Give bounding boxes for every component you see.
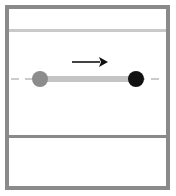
start-ball [32, 71, 48, 87]
arrow-right-icon [72, 57, 108, 67]
end-ball [128, 71, 144, 87]
motion-scene [0, 0, 176, 196]
